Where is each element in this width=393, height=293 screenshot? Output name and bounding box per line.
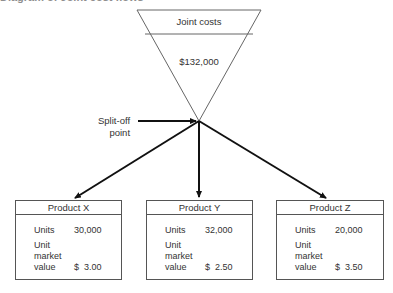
umv-label-1: Unit — [295, 240, 311, 251]
units-value: 32,000 — [205, 225, 233, 236]
arrow-to-product-x — [75, 121, 199, 198]
umv-label-1: Unit — [165, 240, 181, 251]
split-off-line2: point — [98, 127, 130, 139]
units-label: Units — [34, 225, 55, 236]
umv-label-2: market — [165, 251, 193, 262]
umv-label-3: value — [34, 262, 56, 273]
joint-costs-amount: $132,000 — [150, 56, 248, 67]
units-label: Units — [165, 225, 186, 236]
units-value: 20,000 — [335, 225, 363, 236]
umv-label-2: market — [34, 251, 62, 262]
price-value: $ 3.50 — [335, 262, 363, 273]
units-value: 30,000 — [74, 225, 102, 236]
price-value: $ 3.00 — [74, 262, 102, 273]
umv-label-1: Unit — [34, 240, 50, 251]
split-off-line1: Split-off — [98, 115, 130, 127]
joint-costs-label: Joint costs — [150, 16, 248, 27]
product-x-title: Product X — [16, 201, 121, 215]
price-value: $ 2.50 — [205, 262, 233, 273]
product-y-title: Product Y — [147, 201, 252, 215]
umv-label-3: value — [295, 262, 317, 273]
product-z-box: Product Z Units 20,000 Unit market value… — [276, 200, 384, 280]
units-label: Units — [295, 225, 316, 236]
split-off-label: Split-off point — [98, 115, 130, 139]
arrow-to-product-z — [199, 121, 326, 198]
product-y-box: Product Y Units 32,000 Unit market value… — [146, 200, 253, 280]
umv-label-2: market — [295, 251, 323, 262]
product-z-title: Product Z — [277, 201, 383, 215]
product-x-box: Product X Units 30,000 Unit market value… — [15, 200, 122, 280]
umv-label-3: value — [165, 262, 187, 273]
